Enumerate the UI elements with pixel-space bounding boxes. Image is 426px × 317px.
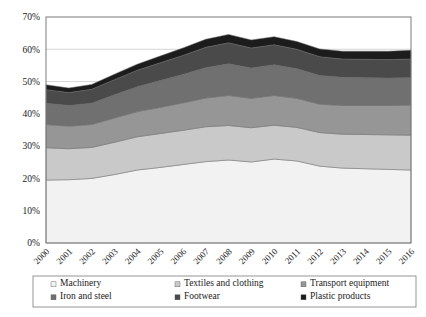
legend-label-plastic-products: Plastic products <box>310 291 371 301</box>
legend: MachineryTextiles and clothingTransport … <box>33 276 416 307</box>
legend-swatch-transport-equipment <box>301 282 306 287</box>
legend-item-plastic-products[interactable]: Plastic products <box>301 291 371 301</box>
legend-swatch-iron-and-steel <box>51 295 56 300</box>
y-axis-tick-label: 50% <box>23 77 41 87</box>
legend-label-footwear: Footwear <box>184 291 221 301</box>
legend-item-transport-equipment[interactable]: Transport equipment <box>301 278 389 288</box>
y-axis-tick-label: 30% <box>23 141 41 151</box>
y-axis-tick-label: 70% <box>23 12 41 22</box>
y-axis-tick-label: 10% <box>23 206 41 216</box>
legend-swatch-textiles-and-clothing <box>175 282 180 287</box>
legend-item-textiles-and-clothing[interactable]: Textiles and clothing <box>175 278 264 288</box>
chart-container: 0%10%20%30%40%50%60%70% 2000200120022003… <box>0 0 426 317</box>
legend-swatch-plastic-products <box>301 295 306 300</box>
legend-label-transport-equipment: Transport equipment <box>310 278 389 288</box>
legend-swatch-machinery <box>51 282 56 287</box>
y-axis-tick-label: 20% <box>23 174 41 184</box>
legend-label-machinery: Machinery <box>60 278 101 288</box>
y-axis-tick-label: 40% <box>23 109 41 119</box>
y-axis-tick-label: 0% <box>27 238 40 248</box>
legend-label-textiles-and-clothing: Textiles and clothing <box>184 278 264 288</box>
legend-swatch-footwear <box>175 295 180 300</box>
stacked-area-chart: 0%10%20%30%40%50%60%70% 2000200120022003… <box>0 0 426 317</box>
legend-item-iron-and-steel[interactable]: Iron and steel <box>51 291 112 301</box>
y-axis-tick-label: 60% <box>23 45 41 55</box>
legend-label-iron-and-steel: Iron and steel <box>60 291 112 301</box>
